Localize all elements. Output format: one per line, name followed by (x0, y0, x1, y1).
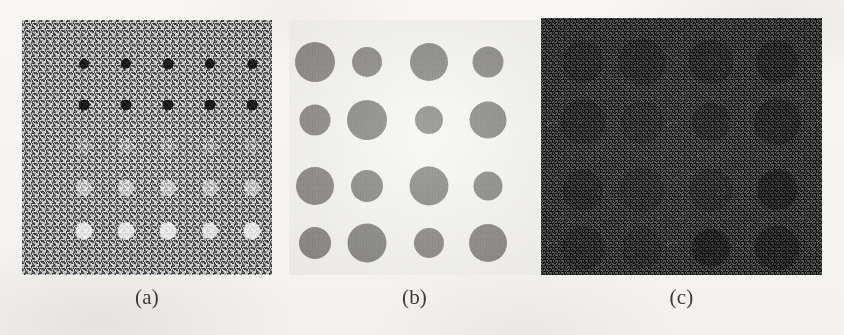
panel-a-dot (203, 139, 218, 154)
panel-a-dot (120, 99, 131, 110)
figure-panel-a (22, 20, 272, 275)
panel-b-dot (295, 42, 335, 82)
panel-a-dot (202, 223, 218, 239)
panel-b-dot (347, 100, 387, 140)
panel-b-dot (351, 170, 383, 202)
panel-c-dot (562, 227, 604, 269)
panel-a-dot (160, 180, 176, 196)
panel-c-dot (692, 229, 730, 267)
panel-c-dot (689, 40, 733, 84)
panel-c-dot (622, 228, 662, 268)
panel-c-dot (757, 170, 797, 210)
panel-b-dot (474, 172, 503, 201)
panel-b-dot (470, 102, 507, 139)
panel-a-dot (247, 59, 257, 69)
panel-b-dot (415, 106, 443, 134)
panel-a-dot (118, 180, 134, 196)
panel-b-dot (414, 228, 444, 258)
panel-c-dot (563, 170, 603, 210)
panel-c-dot (755, 226, 799, 270)
figure-panel-b (289, 20, 540, 275)
panel-a-dot (121, 59, 131, 69)
panel-a-dot-grid (22, 20, 272, 275)
panel-a-dot (245, 139, 260, 154)
panel-c-dot (621, 101, 663, 143)
figure-panel-c (541, 18, 822, 275)
panel-b-dot (348, 224, 387, 263)
panel-a-dot (161, 139, 176, 154)
panel-a-dot (118, 223, 135, 240)
panel-a-dot (76, 180, 92, 196)
panel-b-dot-grid (289, 20, 540, 275)
panel-c-caption: (c) (541, 287, 822, 308)
panel-b-caption: (b) (289, 287, 540, 308)
panel-a-dot (247, 100, 258, 111)
panel-a-dot (79, 59, 89, 69)
panel-a-dot (205, 59, 215, 69)
panel-b-dot (352, 47, 382, 77)
panel-c-dot (692, 103, 730, 141)
figure-panel-row: (a) (b) (c) (0, 0, 844, 335)
panel-a-dot (160, 223, 177, 240)
panel-a-dot (76, 223, 93, 240)
panel-c-dot (563, 42, 603, 82)
panel-a-dot (119, 139, 134, 154)
panel-b-dot (410, 43, 448, 81)
panel-c-dot (619, 39, 665, 85)
panel-b-dot (469, 224, 507, 262)
panel-a-dot (162, 99, 173, 110)
panel-c-dot-grid (541, 18, 822, 275)
panel-a-dot (204, 99, 215, 110)
panel-a-dot (79, 100, 90, 111)
panel-c-dot (756, 41, 798, 83)
panel-b-dot (410, 167, 449, 206)
panel-c-dot (690, 169, 732, 211)
panel-c-dot (620, 168, 664, 212)
panel-b-dot (296, 167, 334, 205)
panel-a-dot (163, 59, 174, 70)
panel-c-dot (561, 100, 605, 144)
panel-a-dot (202, 180, 218, 196)
panel-a-dot (77, 139, 92, 154)
panel-b-dot (300, 105, 331, 136)
panel-a-dot (244, 180, 260, 196)
panel-b-dot (473, 47, 504, 78)
panel-a-dot (244, 223, 261, 240)
panel-b-dot (299, 227, 331, 259)
panel-c-dot (754, 99, 800, 145)
panel-a-caption: (a) (22, 287, 272, 308)
